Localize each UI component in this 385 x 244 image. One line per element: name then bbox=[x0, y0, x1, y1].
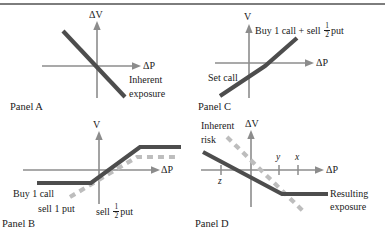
panel-d-inherent-risk-label-line2: risk bbox=[201, 134, 216, 145]
panel-c-y-axis-arrow bbox=[245, 24, 252, 33]
panel-c-strategy-fraction: 12 bbox=[324, 22, 330, 38]
panel-d-x-axis-label: ΔP bbox=[326, 164, 338, 175]
panel-d-resulting-exposure-label-line1: Resulting bbox=[330, 188, 368, 199]
panel-d-inherent-risk-line bbox=[227, 137, 305, 213]
panel-b-sell-half-put-fraction: 12 bbox=[113, 203, 119, 219]
panel-c-set-call-label: Set call bbox=[208, 72, 238, 83]
panel-d-y-axis-arrow bbox=[247, 130, 254, 139]
panel-d-caption: Panel D bbox=[195, 218, 229, 229]
panel-b-buy-1-call-label: Buy 1 call bbox=[13, 188, 54, 199]
panel-a-inherent-exposure-line bbox=[63, 31, 125, 97]
panel-c-strategy-suffix: put bbox=[331, 25, 344, 36]
panel-c-y-axis-label: V bbox=[244, 11, 251, 22]
panel-a-x-axis-arrow bbox=[132, 62, 141, 69]
panel-c: V ΔP Buy 1 call + sell 12put Set call Pa… bbox=[193, 0, 385, 122]
panel-d-resulting-exposure-label-line2: exposure bbox=[330, 201, 366, 212]
figure-canvas: ΔV ΔP Inherent exposure Panel A V ΔP Buy… bbox=[0, 0, 385, 244]
panel-b-x-axis-arrow bbox=[151, 166, 160, 173]
panel-a-inherent-exposure-label-line2: exposure bbox=[129, 88, 165, 99]
panel-d-tick-label-x: x bbox=[295, 152, 299, 163]
panel-c-payoff-line bbox=[220, 38, 297, 96]
panel-c-x-axis-label: ΔP bbox=[316, 57, 328, 68]
panel-b-y-axis-arrow bbox=[95, 131, 102, 140]
panel-c-strategy-label: Buy 1 call + sell 12put bbox=[255, 22, 344, 38]
panel-c-x-axis-arrow bbox=[305, 59, 314, 66]
panel-d: ΔV ΔP Inherent risk Resulting exposure z… bbox=[193, 112, 385, 234]
panel-b-sell-1-put-label: sell 1 put bbox=[38, 203, 75, 214]
panel-b-y-axis-label: V bbox=[93, 119, 100, 130]
panel-c-strategy-prefix: Buy 1 call + sell bbox=[255, 25, 323, 36]
panel-a-caption: Panel A bbox=[10, 101, 43, 112]
panel-b-x-axis-label: ΔP bbox=[161, 164, 173, 175]
panel-d-tick-label-y: y bbox=[276, 152, 280, 163]
panel-c-fraction-denominator: 2 bbox=[324, 31, 330, 39]
panel-b-fraction-denominator: 2 bbox=[113, 212, 119, 220]
panel-b-solid-payoff-line bbox=[37, 147, 181, 183]
panel-b-caption: Panel B bbox=[2, 218, 35, 229]
panel-a-x-axis-label: ΔP bbox=[143, 60, 155, 71]
panel-b-sell-half-put-label: sell 12put bbox=[96, 203, 133, 219]
panel-b: V ΔP Buy 1 call sell 1 put sell 12put Pa… bbox=[0, 112, 192, 234]
panel-d-y-axis-label: ΔV bbox=[245, 118, 259, 129]
panel-d-inherent-risk-label-line1: Inherent bbox=[201, 120, 234, 131]
panel-a: ΔV ΔP Inherent exposure Panel A bbox=[0, 0, 192, 122]
panel-a-y-axis-arrow bbox=[93, 21, 100, 30]
panel-b-dashed-payoff-line bbox=[70, 157, 180, 197]
panel-b-sell-half-put-suffix: put bbox=[120, 206, 133, 217]
panel-d-tick-label-z: z bbox=[218, 176, 222, 187]
panel-b-sell-half-put-prefix: sell bbox=[96, 206, 112, 217]
panel-a-y-axis-label: ΔV bbox=[89, 9, 103, 20]
panel-c-caption: Panel C bbox=[198, 101, 231, 112]
panel-d-x-axis-arrow bbox=[315, 166, 324, 173]
panel-a-inherent-exposure-label-line1: Inherent bbox=[129, 74, 162, 85]
